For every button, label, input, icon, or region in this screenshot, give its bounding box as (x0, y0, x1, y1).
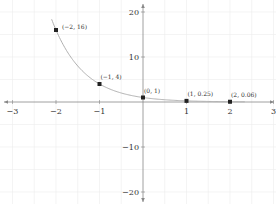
y-tick-label: −10 (122, 143, 139, 152)
y-axis-arrow-icon (141, 4, 145, 8)
x-tick-label: −2 (50, 107, 62, 116)
chart-canvas: −3−2−11232010−10−20 (−2, 16)(−1, 4)(0, 1… (0, 0, 276, 204)
y-tick-label: −20 (122, 188, 139, 197)
x-tick-label: −1 (94, 107, 106, 116)
x-tick-label: 1 (184, 107, 189, 116)
y-tick-label: 10 (129, 53, 139, 62)
data-point-label: (1, 0.25) (188, 90, 214, 97)
data-point-label: (0, 1) (144, 87, 160, 94)
tick-labels: −3−2−11232010−10−20 (7, 8, 276, 197)
data-point-label: (−2, 16) (62, 23, 87, 30)
data-point-label: (2, 0.06) (231, 91, 257, 98)
x-tick-label: −3 (7, 107, 19, 116)
x-axis-arrow-left-icon (4, 100, 8, 104)
data-points: (−2, 16)(−1, 4)(0, 1)(1, 0.25)(2, 0.06) (54, 23, 257, 104)
axes (4, 4, 274, 202)
exponential-chart: −3−2−11232010−10−20 (−2, 16)(−1, 4)(0, 1… (0, 0, 276, 204)
x-tick-label: 2 (227, 107, 232, 116)
y-axis-arrow-down-icon (141, 198, 145, 202)
x-tick-label: 3 (271, 107, 276, 116)
data-point-marker (98, 82, 102, 86)
y-tick-label: 20 (129, 8, 139, 17)
data-point-marker (185, 99, 189, 103)
data-point-marker (141, 96, 145, 100)
data-point-marker (54, 28, 58, 32)
data-point-marker (228, 100, 232, 104)
data-point-label: (−1, 4) (101, 73, 122, 80)
